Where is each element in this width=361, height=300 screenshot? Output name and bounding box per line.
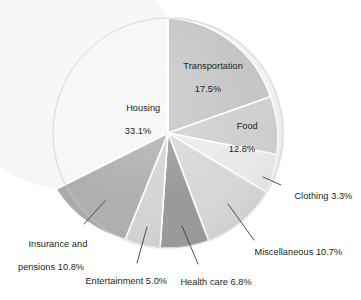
slice-label-health-care-text: Health care 6.8%	[180, 277, 251, 287]
pie-chart-figure: Housing 33.1% Transportation 17.5% Food …	[0, 0, 361, 300]
slice-label-transportation-value: 17.5%	[161, 84, 255, 95]
slice-label-food-value: 12.8%	[214, 144, 270, 155]
slice-label-clothing: Clothing 3.3%	[284, 180, 360, 214]
slice-label-transportation: Transportation 17.5%	[161, 50, 255, 118]
slice-label-insurance-and-pensions: Insurance and pensions 10.8%	[18, 228, 114, 296]
slice-label-food: Food 12.8%	[214, 110, 270, 178]
slice-label-housing-name: Housing	[126, 103, 160, 113]
slice-label-transportation-name: Transportation	[183, 61, 243, 71]
slice-label-housing-value: 33.1%	[104, 126, 172, 137]
slice-label-miscellaneous-text: Miscellaneous 10.7%	[254, 247, 342, 257]
slice-label-insurance-line1: Insurance and	[28, 239, 87, 249]
slice-label-clothing-text: Clothing 3.3%	[294, 191, 352, 201]
slice-label-food-name: Food	[237, 121, 258, 131]
slice-label-insurance-line2: pensions 10.8%	[18, 262, 114, 273]
